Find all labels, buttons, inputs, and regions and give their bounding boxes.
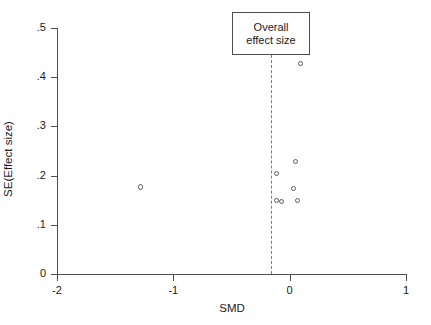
x-axis-title: SMD xyxy=(57,302,407,315)
x-tick-label: 0 xyxy=(270,285,310,296)
y-tick-mark xyxy=(51,126,57,127)
x-tick-mark xyxy=(57,275,58,281)
annotation-line-2: effect size xyxy=(246,34,295,47)
x-tick-mark xyxy=(406,275,407,281)
y-axis-line xyxy=(57,28,58,275)
scatter-point xyxy=(138,184,143,189)
x-tick-label: -2 xyxy=(37,285,77,296)
y-tick-label: .5 xyxy=(6,22,46,33)
scatter-point xyxy=(298,61,303,66)
y-tick-mark xyxy=(51,225,57,226)
scatter-point xyxy=(279,199,284,204)
y-tick-mark xyxy=(51,28,57,29)
scatter-point xyxy=(291,186,296,191)
scatter-point xyxy=(274,171,279,176)
x-tick-label: -1 xyxy=(153,285,193,296)
y-tick-mark xyxy=(51,176,57,177)
x-tick-mark xyxy=(173,275,174,281)
overall-effect-size-label-box: Overall effect size xyxy=(232,12,310,55)
overall-effect-size-reference-line xyxy=(271,55,272,274)
y-axis-title: SE(Effect size) xyxy=(0,36,16,282)
funnel-plot-figure: .5.4.3.2.10 -2-101 SE(Effect size) SMD O… xyxy=(0,0,431,325)
x-tick-mark xyxy=(290,275,291,281)
annotation-line-1: Overall xyxy=(254,21,289,34)
y-tick-mark xyxy=(51,77,57,78)
scatter-point xyxy=(295,198,300,203)
scatter-point xyxy=(293,159,298,164)
x-axis-line xyxy=(57,274,407,275)
x-tick-label: 1 xyxy=(386,285,426,296)
